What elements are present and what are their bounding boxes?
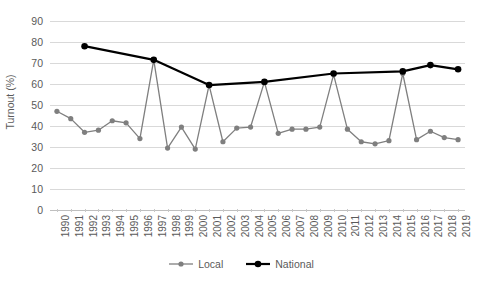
x-tick-label: 2009 [324, 215, 334, 237]
x-tick-mark [195, 209, 196, 212]
data-point-national-2017 [427, 62, 434, 69]
data-point-national-2019 [455, 66, 462, 73]
x-tick-label: 2001 [213, 215, 223, 237]
x-tick-label: 2002 [227, 215, 237, 237]
data-point-local-1995 [123, 120, 128, 125]
legend-label: Local [198, 258, 223, 270]
data-point-local-1996 [137, 136, 142, 141]
x-tick-label: 2005 [268, 215, 278, 237]
x-tick-mark [389, 209, 390, 212]
data-point-national-2001 [206, 82, 213, 89]
x-tick-mark [430, 209, 431, 212]
data-point-local-2013 [372, 141, 377, 146]
x-tick-mark [181, 209, 182, 212]
data-point-local-2006 [276, 131, 281, 136]
data-point-local-1998 [165, 145, 170, 150]
x-tick-mark [375, 209, 376, 212]
series-line-local [57, 60, 458, 149]
x-tick-mark [57, 209, 58, 212]
x-tick-mark [112, 209, 113, 212]
legend-marker-icon [245, 259, 271, 269]
x-tick-mark [361, 209, 362, 212]
data-point-local-2007 [289, 127, 294, 132]
x-tick-mark [85, 209, 86, 212]
data-point-local-2014 [386, 138, 391, 143]
x-tick-mark [154, 209, 155, 212]
x-tick-label: 2012 [365, 215, 375, 237]
x-tick-mark [237, 209, 238, 212]
x-tick-label: 1997 [158, 215, 168, 237]
x-tick-label: 1999 [185, 215, 195, 237]
x-tick-label: 2007 [296, 215, 306, 237]
x-tick-label: 2015 [407, 215, 417, 237]
data-point-local-2000 [193, 147, 198, 152]
x-tick-label: 2011 [351, 215, 361, 237]
x-tick-mark [71, 209, 72, 212]
data-point-local-2002 [220, 139, 225, 144]
x-tick-mark [334, 209, 335, 212]
x-tick-label: 2008 [310, 215, 320, 237]
x-tick-mark [306, 209, 307, 212]
data-point-local-1991 [68, 116, 73, 121]
data-point-local-2012 [359, 139, 364, 144]
legend-label: National [275, 258, 314, 270]
data-point-national-2015 [399, 68, 406, 75]
x-tick-label: 1992 [89, 215, 99, 237]
x-tick-mark [458, 209, 459, 212]
x-tick-mark [168, 209, 169, 212]
legend-marker-icon [168, 259, 194, 269]
x-tick-label: 1994 [116, 215, 126, 237]
data-point-local-2018 [442, 135, 447, 140]
data-point-local-1990 [54, 109, 59, 114]
data-point-local-1999 [179, 124, 184, 129]
data-point-national-1992 [81, 43, 88, 50]
legend-item-national[interactable]: National [245, 258, 314, 270]
data-point-national-2005 [261, 79, 268, 86]
data-point-local-2017 [428, 129, 433, 134]
x-tick-mark [347, 209, 348, 212]
chart-legend: LocalNational [0, 258, 482, 270]
x-tick-mark [209, 209, 210, 212]
data-point-national-2010 [330, 70, 337, 77]
data-point-local-1992 [82, 130, 87, 135]
x-tick-mark [251, 209, 252, 212]
x-tick-label: 1995 [130, 215, 140, 237]
data-point-local-2008 [303, 127, 308, 132]
data-point-local-2016 [414, 137, 419, 142]
x-axis-ticks: 1990199119921993199419951996199719981999… [50, 212, 465, 260]
x-tick-mark [223, 209, 224, 212]
x-tick-label: 2013 [379, 215, 389, 237]
data-point-local-1993 [96, 128, 101, 133]
x-tick-mark [444, 209, 445, 212]
x-tick-label: 2017 [434, 215, 444, 237]
x-tick-label: 2014 [393, 215, 403, 237]
data-point-local-1994 [110, 118, 115, 123]
x-tick-label: 2019 [462, 215, 472, 237]
data-point-local-2004 [248, 124, 253, 129]
x-tick-label: 1996 [144, 215, 154, 237]
x-tick-label: 2004 [255, 215, 265, 237]
x-tick-mark [140, 209, 141, 212]
x-tick-label: 2000 [199, 215, 209, 237]
x-tick-label: 2003 [241, 215, 251, 237]
data-point-local-2011 [345, 127, 350, 132]
x-tick-mark [320, 209, 321, 212]
data-point-local-2009 [317, 124, 322, 129]
x-tick-label: 2018 [448, 215, 458, 237]
x-tick-mark [417, 209, 418, 212]
legend-item-local[interactable]: Local [168, 258, 223, 270]
x-tick-label: 1993 [102, 215, 112, 237]
x-tick-mark [98, 209, 99, 212]
data-point-national-1997 [150, 57, 157, 64]
data-point-local-2003 [234, 126, 239, 131]
x-tick-mark [292, 209, 293, 212]
x-tick-label: 1998 [172, 215, 182, 237]
x-tick-mark [264, 209, 265, 212]
x-tick-label: 1991 [75, 215, 85, 237]
x-tick-mark [278, 209, 279, 212]
x-tick-label: 2016 [421, 215, 431, 237]
x-tick-label: 1990 [61, 215, 71, 237]
x-tick-mark [126, 209, 127, 212]
x-tick-label: 2010 [338, 215, 348, 237]
x-tick-mark [403, 209, 404, 212]
